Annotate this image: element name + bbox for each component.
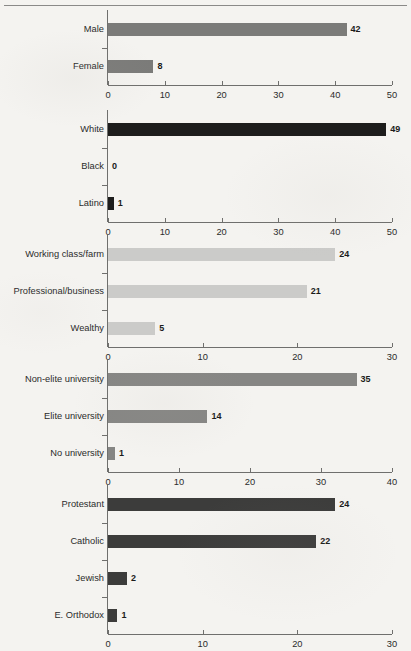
x-axis-tick-label: 0 bbox=[88, 352, 128, 362]
bar-row: Elite university14 bbox=[0, 406, 411, 426]
x-axis-tick-label: 0 bbox=[88, 90, 128, 100]
bar-row: Working class/farm24 bbox=[0, 244, 411, 264]
x-axis-tick-label: 10 bbox=[183, 639, 223, 649]
bar-value-label: 24 bbox=[339, 244, 349, 264]
bar-row: E. Orthodox1 bbox=[0, 605, 411, 625]
x-axis-tick-label: 30 bbox=[372, 352, 411, 362]
category-label: Catholic bbox=[0, 531, 104, 551]
category-label: Non-elite university bbox=[0, 369, 104, 389]
bar-value-label: 1 bbox=[119, 443, 124, 463]
bar bbox=[108, 535, 316, 548]
bar-value-label: 35 bbox=[361, 369, 371, 389]
bar bbox=[108, 322, 155, 335]
bar-row: Catholic22 bbox=[0, 531, 411, 551]
category-label: Protestant bbox=[0, 494, 104, 514]
x-axis-tick-label: 10 bbox=[145, 90, 185, 100]
x-axis-tick bbox=[203, 343, 204, 347]
bar-row: Non-elite university35 bbox=[0, 369, 411, 389]
category-label: No university bbox=[0, 443, 104, 463]
bar-chart-figure: Male42Female801020304050White49Black0Lat… bbox=[0, 0, 411, 651]
x-axis-tick bbox=[108, 468, 109, 472]
x-axis-tick bbox=[222, 81, 223, 85]
x-axis-tick-label: 10 bbox=[145, 227, 185, 237]
x-axis-tick bbox=[165, 218, 166, 222]
x-axis-tick-label: 40 bbox=[315, 90, 355, 100]
bar-row: Protestant24 bbox=[0, 494, 411, 514]
bar-value-label: 49 bbox=[390, 119, 400, 139]
y-axis-line bbox=[107, 10, 108, 85]
bar bbox=[108, 609, 117, 622]
x-axis-tick-label: 10 bbox=[183, 352, 223, 362]
y-axis-line bbox=[107, 110, 108, 222]
bar-row: Male42 bbox=[0, 19, 411, 39]
bar-row: Female8 bbox=[0, 56, 411, 76]
x-axis-tick-label: 20 bbox=[202, 90, 242, 100]
x-axis-tick-label: 30 bbox=[258, 227, 298, 237]
category-label: Working class/farm bbox=[0, 244, 104, 264]
bar-value-label: 2 bbox=[131, 568, 136, 588]
bar-value-label: 21 bbox=[311, 281, 321, 301]
x-axis-tick-label: 30 bbox=[372, 639, 411, 649]
x-axis-tick-label: 20 bbox=[277, 352, 317, 362]
bar-row: White49 bbox=[0, 119, 411, 139]
x-axis-tick bbox=[250, 468, 251, 472]
x-axis-tick bbox=[108, 218, 109, 222]
bar-row: Professional/business21 bbox=[0, 281, 411, 301]
bar-row: Jewish2 bbox=[0, 568, 411, 588]
bar-value-label: 42 bbox=[351, 19, 361, 39]
bar bbox=[108, 197, 114, 210]
bar bbox=[108, 23, 347, 36]
x-axis-tick-label: 30 bbox=[258, 90, 298, 100]
category-label: Black bbox=[0, 156, 104, 176]
bar-value-label: 14 bbox=[211, 406, 221, 426]
x-axis-tick bbox=[392, 468, 393, 472]
x-axis-line bbox=[108, 472, 392, 473]
bar bbox=[108, 498, 335, 511]
category-label: Jewish bbox=[0, 568, 104, 588]
bar bbox=[108, 123, 386, 136]
x-axis-tick-label: 40 bbox=[372, 477, 411, 487]
x-axis-tick bbox=[165, 81, 166, 85]
bar bbox=[108, 373, 357, 386]
x-axis-tick bbox=[297, 630, 298, 634]
x-axis-tick bbox=[108, 630, 109, 634]
x-axis-tick bbox=[278, 218, 279, 222]
x-axis-tick-label: 40 bbox=[315, 227, 355, 237]
x-axis-line bbox=[108, 85, 392, 86]
x-axis-tick bbox=[392, 81, 393, 85]
bar-row: Black0 bbox=[0, 156, 411, 176]
category-label: E. Orthodox bbox=[0, 605, 104, 625]
x-axis-tick-label: 30 bbox=[301, 477, 341, 487]
x-axis-tick bbox=[179, 468, 180, 472]
category-label: Female bbox=[0, 56, 104, 76]
x-axis-tick-label: 50 bbox=[372, 90, 411, 100]
bar-value-label: 1 bbox=[118, 193, 123, 213]
category-label: Elite university bbox=[0, 406, 104, 426]
bar bbox=[108, 285, 307, 298]
x-axis-tick bbox=[278, 81, 279, 85]
x-axis-tick-label: 10 bbox=[159, 477, 199, 487]
x-axis-tick bbox=[392, 343, 393, 347]
bar bbox=[108, 60, 153, 73]
bar-value-label: 0 bbox=[112, 156, 117, 176]
y-axis-line bbox=[107, 235, 108, 347]
x-axis-line bbox=[108, 347, 392, 348]
x-axis-tick-label: 0 bbox=[88, 477, 128, 487]
x-axis-tick bbox=[392, 218, 393, 222]
x-axis-tick bbox=[392, 630, 393, 634]
x-axis-tick-label: 20 bbox=[277, 639, 317, 649]
x-axis-tick-label: 50 bbox=[372, 227, 411, 237]
x-axis-tick bbox=[222, 218, 223, 222]
bar-value-label: 22 bbox=[320, 531, 330, 551]
x-axis-tick bbox=[297, 343, 298, 347]
bar bbox=[108, 410, 207, 423]
bar-value-label: 1 bbox=[121, 605, 126, 625]
category-label: Male bbox=[0, 19, 104, 39]
x-axis-tick-label: 0 bbox=[88, 639, 128, 649]
bar-value-label: 24 bbox=[339, 494, 349, 514]
bar bbox=[108, 447, 115, 460]
x-axis-tick-label: 20 bbox=[230, 477, 270, 487]
category-label: White bbox=[0, 119, 104, 139]
bar-value-label: 5 bbox=[159, 318, 164, 338]
x-axis-tick bbox=[335, 218, 336, 222]
